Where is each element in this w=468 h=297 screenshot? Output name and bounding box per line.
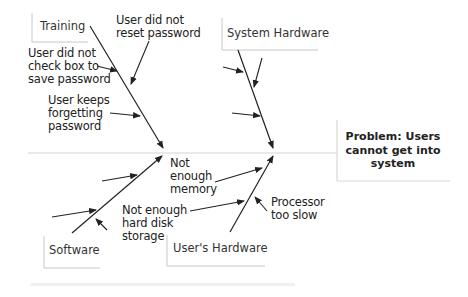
cause-label-reset-password: User did not reset password bbox=[116, 14, 201, 40]
users-hardware-cause-arrow-memory bbox=[215, 168, 262, 182]
software-cause-arrow-1 bbox=[102, 175, 137, 181]
training-cause-arrow-forgetting bbox=[110, 113, 140, 116]
cause-label-forgetting-password: User keeps forgetting password bbox=[48, 94, 110, 133]
cause-label-disk-storage: Not enough hard disk storage bbox=[122, 204, 187, 243]
system-hardware-cause-arrow-3 bbox=[232, 113, 260, 116]
problem-statement: Problem: Users cannot get into system bbox=[342, 130, 444, 171]
caption-placeholder bbox=[30, 283, 295, 286]
system-hardware-bone bbox=[238, 50, 273, 148]
software-cause-arrow-3 bbox=[96, 219, 107, 230]
users-hardware-cause-arrow-processor bbox=[255, 197, 267, 211]
cause-label-memory: Not enough memory bbox=[170, 157, 217, 196]
category-label-users-hardware: User's Hardware bbox=[173, 242, 268, 255]
category-label-software: Software bbox=[49, 244, 100, 257]
system-hardware-cause-arrow-1 bbox=[223, 67, 243, 72]
category-label-system-hardware: System Hardware bbox=[227, 27, 329, 40]
cause-label-check-box: User did not check box to save password bbox=[28, 47, 111, 86]
category-label-training: Training bbox=[40, 20, 85, 33]
training-cause-arrow-reset bbox=[131, 41, 149, 84]
system-hardware-cause-arrow-2 bbox=[254, 58, 262, 87]
software-cause-arrow-2 bbox=[52, 210, 96, 217]
users-hardware-bone bbox=[230, 156, 273, 232]
users-hardware-cause-arrow-disk bbox=[190, 201, 244, 211]
cause-label-processor: Processor too slow bbox=[271, 196, 325, 222]
